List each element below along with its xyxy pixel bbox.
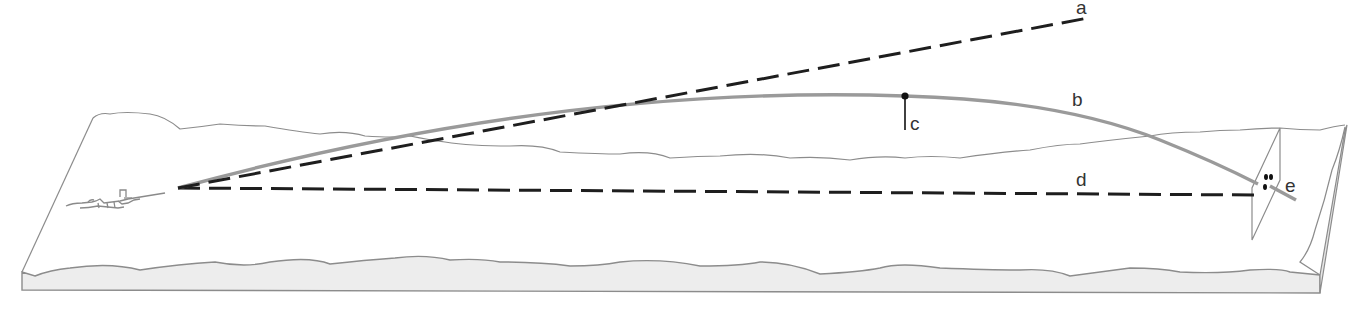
terrain-slab xyxy=(22,113,1347,294)
bullet-hole-3 xyxy=(1263,184,1267,190)
slab-right-face-edge xyxy=(1300,127,1345,275)
line-of-sight-d xyxy=(178,188,1256,195)
trajectory-diagram: a b c d e xyxy=(0,0,1357,316)
label-b: b xyxy=(1072,89,1083,110)
label-d: d xyxy=(1076,169,1087,190)
label-a: a xyxy=(1076,0,1087,18)
rifleman-icon xyxy=(66,190,165,208)
slab-right-face xyxy=(1320,125,1347,293)
slab-left-edge xyxy=(22,118,93,272)
label-e: e xyxy=(1285,175,1296,196)
label-c: c xyxy=(910,113,920,134)
slab-front-face xyxy=(22,256,1320,293)
slab-far-edge xyxy=(93,113,1345,161)
apex-marker-c xyxy=(901,92,908,130)
bullet-hole-2 xyxy=(1269,174,1273,180)
bullet-hole-1 xyxy=(1264,174,1268,180)
